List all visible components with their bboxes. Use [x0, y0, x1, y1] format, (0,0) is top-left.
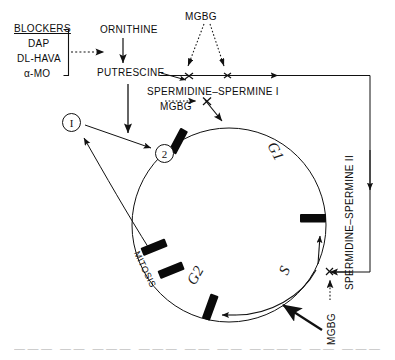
node-one[interactable]: I — [62, 113, 81, 132]
arrow-into-g2s — [283, 305, 322, 330]
label-ornithine: ORNITHINE — [100, 25, 158, 35]
node-two[interactable]: 2 — [155, 144, 174, 163]
s-phase-inner-arc — [222, 236, 320, 315]
blocker-item-alpha-mo: α-MO — [24, 69, 50, 79]
arrowhead-spermidine1-junction — [161, 73, 186, 80]
blockers-bracket — [64, 30, 69, 76]
label-putrescine: PUTRESCINE — [97, 68, 164, 78]
label-spermidine-spermine-1: SPERMIDINE–SPERMINE I — [147, 87, 279, 97]
label-mgbg-top: MGBG — [185, 12, 217, 22]
arrow-mitosis-to-node1 — [84, 138, 150, 250]
arrow-node1-to-node2 — [85, 125, 151, 148]
diagram-canvas: BLOCKERS DAP DL-HAVA α-MO ORNITHINE PUTR… — [0, 0, 395, 360]
blockers-heading: BLOCKERS — [14, 24, 71, 34]
blocker-item-dap: DAP — [28, 39, 49, 49]
label-mgbg-mid: MGBG — [160, 102, 192, 112]
figure-caption: ——— —— ——— ——— —— —— ———— —— ——— — [0, 336, 395, 360]
blocker-item-dlhava: DL-HAVA — [17, 54, 61, 64]
label-spermidine-spermine-2: SPERMIDINE–SPERMINE II — [345, 155, 355, 290]
inhibition-mgbg-top — [188, 24, 224, 66]
